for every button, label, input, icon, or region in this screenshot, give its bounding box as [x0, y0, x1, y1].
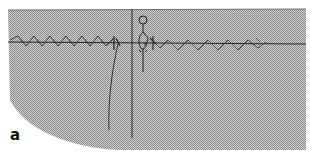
halftone-region	[8, 9, 306, 150]
diagram-canvas	[0, 0, 313, 158]
panel-label: a	[10, 128, 20, 143]
